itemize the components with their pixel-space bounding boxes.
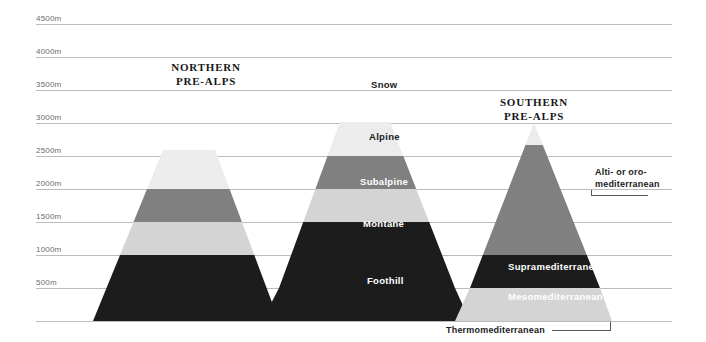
band-alpine-north <box>80 140 300 189</box>
band-subalpine-south <box>450 145 625 255</box>
band-montane-north <box>80 222 300 255</box>
axis-tick-3000: 3000m <box>36 113 61 122</box>
region-title-northern-line1: NORTHERN <box>171 61 241 73</box>
zone-label-subalpine: Subalpine <box>360 176 408 187</box>
callout-alti-oro-line1: Alti- or oro- <box>595 167 647 177</box>
band-foothill-central <box>255 222 485 325</box>
elevation-zonation-figure: 4500m 4000m 3500m 3000m 2500m 2000m 1500… <box>0 0 706 342</box>
axis-tick-1000: 1000m <box>36 245 61 254</box>
axis-tick-3500: 3500m <box>36 80 61 89</box>
zone-label-snow: Snow <box>371 79 398 90</box>
axis-tick-500: 500m <box>36 278 57 287</box>
zone-label-supramediterranean: Supramediterranean <box>508 261 606 272</box>
axis-tick-4000: 4000m <box>36 47 61 56</box>
axis-tick-1500: 1500m <box>36 212 61 221</box>
zone-label-mesomediterranean: Mesomediterranean <box>508 291 603 302</box>
zone-label-foothill: Foothill <box>367 275 404 286</box>
region-title-southern-line2: PRE-ALPS <box>504 110 564 122</box>
region-title-southern-line1: SOUTHERN <box>500 96 568 108</box>
zone-label-montane: Montane <box>363 218 404 229</box>
callout-thermomediterranean: Thermomediterranean <box>446 324 545 336</box>
leader-thermomediterranean <box>552 322 610 331</box>
axis-tick-2500: 2500m <box>36 146 61 155</box>
region-title-northern-line2: PRE-ALPS <box>176 75 236 87</box>
band-subalpine-north <box>80 189 300 222</box>
region-title-southern: SOUTHERN PRE-ALPS <box>454 95 614 123</box>
axis-tick-2000: 2000m <box>36 179 61 188</box>
axis-tick-4500: 4500m <box>36 14 61 23</box>
northern-pre-alps-mountain <box>80 140 300 325</box>
zone-label-alpine: Alpine <box>369 131 400 142</box>
callout-alti-oro-mediterranean: Alti- or oro- mediterranean <box>595 166 660 190</box>
callout-alti-oro-line2: mediterranean <box>595 179 660 189</box>
region-title-northern: NORTHERN PRE-ALPS <box>126 60 286 88</box>
